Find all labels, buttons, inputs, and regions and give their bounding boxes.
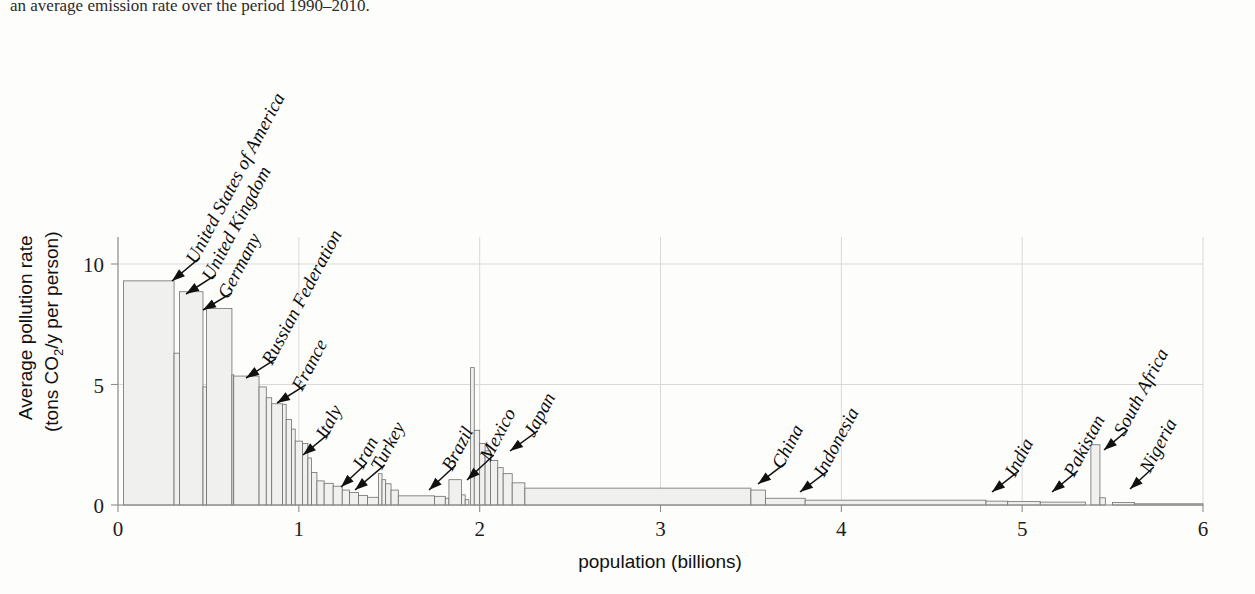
arrowhead-china: [758, 472, 771, 484]
y-axis-unit-suffix: /y per person): [41, 232, 62, 349]
bar-country-40: [503, 474, 512, 505]
bar-country-27: [391, 490, 398, 505]
y-tick-label: 10: [83, 253, 104, 277]
bar-country-31: [449, 480, 462, 505]
x-tick-label: 3: [655, 517, 666, 541]
bar-country-28: [398, 496, 434, 505]
y-tick-label: 5: [94, 374, 105, 398]
bar-country-30: [445, 498, 449, 505]
bar-country-25: [382, 480, 386, 505]
x-tick-label: 4: [836, 517, 847, 541]
bar-country-39: [498, 468, 503, 505]
country-label-italy: Italy: [311, 401, 347, 443]
bar-country-45: [805, 500, 986, 505]
bar-country-6: [234, 376, 259, 505]
bar-country-50: [1100, 498, 1105, 505]
annotation-italy: Italy: [303, 401, 346, 455]
bar-country-43: [751, 490, 765, 505]
arrowhead-japan: [510, 440, 523, 451]
bar-country-0: [123, 281, 174, 505]
bar-mexico: [465, 500, 469, 505]
country-label-japan: Japan: [519, 389, 559, 440]
bar-russian-federation: [266, 398, 271, 505]
bar-country-19: [333, 486, 342, 505]
country-label-russian-federation: Russian Federation: [257, 226, 346, 369]
bar-india: [986, 501, 1008, 505]
arrowhead-france: [277, 392, 290, 403]
x-tick-label: 2: [474, 517, 485, 541]
bar-france: [286, 419, 291, 505]
annotation-japan: Japan: [510, 389, 559, 451]
bar-country-17: [317, 481, 324, 505]
country-label-pakistan: Pakistan: [1059, 411, 1109, 480]
bar-country-12: [292, 429, 296, 505]
bar-china: [525, 488, 751, 505]
arrowhead-india: [992, 480, 1005, 492]
x-tick-label: 0: [113, 517, 124, 541]
bar-south-africa: [1091, 445, 1100, 505]
annotation-india: India: [992, 435, 1037, 492]
y-axis-title-line1: Average pollution rate: [15, 236, 36, 421]
x-tick-label: 1: [294, 517, 305, 541]
bar-italy: [311, 472, 316, 505]
country-label-france: France: [287, 336, 332, 395]
bar-country-26: [386, 484, 391, 505]
y-axis-title-line2: (tons CO2/y per person): [41, 232, 66, 433]
bar-country-18: [324, 483, 333, 505]
y-axis-unit-subscript: 2: [51, 349, 66, 356]
arrowhead-indonesia: [800, 480, 813, 492]
bar-turkey: [349, 492, 358, 505]
y-tick-label: 0: [94, 494, 105, 518]
bar-country-15: [308, 458, 312, 505]
x-tick-label: 6: [1198, 517, 1209, 541]
bar-united-states-of-america: [179, 292, 203, 505]
chart-figure: 01234560510 United States of AmericaUnit…: [0, 0, 1255, 594]
bar-country-13: [295, 441, 302, 505]
country-label-china: China: [767, 421, 807, 472]
country-label-nigeria: Nigeria: [1135, 415, 1181, 477]
bar-country-24: [378, 474, 382, 505]
bar-country-10: [283, 404, 287, 505]
annotation-nigeria: Nigeria: [1130, 415, 1181, 489]
bar-country-9: [272, 404, 283, 505]
pollution-vs-population-chart: 01234560510 United States of AmericaUnit…: [0, 0, 1255, 594]
bar-country-22: [359, 495, 368, 505]
bar-country-35: [474, 430, 479, 505]
bar-country-41: [512, 483, 525, 505]
bar-united-kingdom: [207, 309, 232, 505]
bar-country-3: [203, 387, 207, 505]
country-label-mexico: Mexico: [475, 405, 520, 465]
annotation-indonesia: Indonesia: [800, 404, 863, 492]
y-axis-title: Average pollution rate (tons CO2/y per p…: [15, 232, 66, 433]
country-annotations: United States of AmericaUnited KingdomGe…: [172, 89, 1181, 492]
bar-country-32: [462, 495, 466, 505]
country-label-indonesia: Indonesia: [809, 404, 863, 481]
bar-country-7: [259, 387, 266, 505]
bar-iran: [342, 490, 349, 505]
bar-country-23: [368, 497, 379, 505]
x-axis-title: population (billions): [578, 551, 742, 572]
x-tick-label: 5: [1017, 517, 1028, 541]
annotation-russian-federation: Russian Federation: [246, 226, 346, 378]
bar-country-38: [491, 460, 498, 505]
bar-brazil: [434, 496, 445, 505]
arrowhead-pakistan: [1052, 480, 1065, 492]
y-axis-unit-prefix: (tons CO: [41, 356, 62, 432]
country-label-india: India: [1000, 435, 1038, 481]
bar-country-1: [174, 353, 179, 505]
annotation-china: China: [758, 421, 807, 484]
bar-indonesia: [765, 498, 805, 505]
